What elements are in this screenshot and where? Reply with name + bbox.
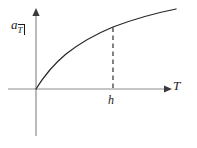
annuity-curve — [36, 9, 176, 89]
y-axis-label: a T — [11, 17, 25, 30]
y-axis-arrowhead — [32, 8, 39, 16]
y-axis — [32, 8, 39, 136]
chart-figure: a T T h — [0, 0, 197, 148]
x-axis — [8, 85, 172, 92]
y-axis-label-subscript: T — [18, 24, 25, 35]
x-axis-label: T — [173, 79, 180, 92]
chart-plot-area — [0, 0, 197, 148]
h-tick-label: h — [108, 94, 114, 106]
x-axis-arrowhead — [164, 85, 172, 92]
